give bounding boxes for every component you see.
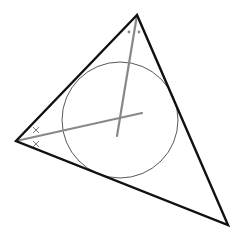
angle-dot-mark	[128, 31, 131, 34]
angle-dot-mark	[138, 31, 141, 34]
triangle-incircle-diagram	[0, 0, 242, 243]
